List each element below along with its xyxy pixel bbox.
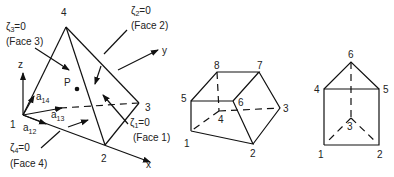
- prism-edge-3-2-hidden: [351, 118, 377, 143]
- point-p-label: P: [64, 77, 71, 88]
- a14-vector-arrow: [23, 96, 34, 115]
- diagram-canvas: P 4 1 2 3 z y x a14 a13 a12 ζ3=0 (Face 3…: [0, 0, 394, 177]
- point-p-marker: [75, 87, 80, 92]
- hexahedron: 1 2 3 4 5 6 7 8: [181, 60, 289, 159]
- x-axis-label: x: [146, 159, 151, 170]
- hex-vertex-1-label: 1: [184, 138, 190, 149]
- hex-vertex-5-label: 5: [181, 93, 187, 104]
- z-axis-label: z: [18, 59, 23, 70]
- face2-label: (Face 2): [131, 20, 168, 31]
- hex-vertex-7-label: 7: [257, 60, 263, 71]
- prism-vertex-5-label: 5: [383, 84, 389, 95]
- tet-vertex-2-label: 2: [101, 153, 107, 164]
- face2-equation: ζ2=0: [131, 5, 151, 17]
- hex-vertex-3-label: 3: [283, 103, 289, 114]
- hex-top-face: [191, 72, 259, 101]
- hex-vertex-4-label: 4: [218, 114, 224, 125]
- face1-label: (Face 1): [133, 132, 170, 143]
- face1-equation: ζ1=0: [130, 117, 150, 129]
- tet-vertex-1-label: 1: [10, 119, 16, 130]
- hex-edge-4-1-hidden: [191, 111, 219, 131]
- edge-1-3-hidden: [60, 103, 139, 108]
- prism-vertex-4-label: 4: [314, 84, 320, 95]
- prism-vertex-2-label: 2: [377, 149, 383, 160]
- hex-vertex-6-label: 6: [238, 97, 244, 108]
- prism-vertex-3-label: 3: [347, 121, 353, 132]
- y-axis-arrow: [118, 50, 158, 70]
- y-axis-label: y: [162, 45, 167, 56]
- face3-pointer-arrow: [35, 48, 69, 70]
- face3-label: (Face 3): [6, 36, 43, 47]
- tet-vertex-3-label: 3: [145, 102, 151, 113]
- a13-label: a13: [51, 109, 64, 122]
- face1-pointer-arrow: [103, 95, 128, 124]
- hex-vertex-8-label: 8: [214, 60, 220, 71]
- face4-leader-line: [41, 131, 60, 148]
- prism-vertex-6-label: 6: [348, 49, 354, 60]
- face4-equation: ζ4=0: [10, 142, 30, 154]
- hex-right-face: [253, 72, 280, 144]
- tetrahedron: P 4 1 2 3 z y x a14 a13 a12 ζ3=0 (Face 3…: [6, 5, 170, 170]
- hex-edge-8-4-hidden: [217, 72, 219, 111]
- hex-vertex-2-label: 2: [250, 148, 256, 159]
- prism-vertex-1-label: 1: [318, 149, 324, 160]
- face4-pointer-arrow: [68, 120, 88, 127]
- edge-4-2: [66, 27, 105, 145]
- tet-vertex-4-label: 4: [61, 7, 67, 18]
- prism: 1 2 3 4 5 6: [314, 49, 389, 160]
- a12-label: a12: [23, 122, 36, 135]
- face3-equation: ζ3=0: [6, 21, 26, 33]
- face2-leader-line: [104, 30, 127, 54]
- a14-label: a14: [36, 91, 49, 104]
- face2-pointer-arrow: [95, 66, 101, 84]
- hex-edge-4-3-hidden: [219, 108, 280, 111]
- element-diagram: P 4 1 2 3 z y x a14 a13 a12 ζ3=0 (Face 3…: [0, 0, 394, 177]
- face4-label: (Face 4): [10, 158, 47, 169]
